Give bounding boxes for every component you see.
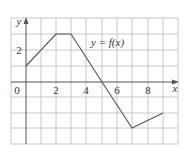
x-axis-label: x: [172, 82, 178, 94]
curve-annotation-func: f(x): [109, 36, 125, 49]
y-axis-label: y: [16, 15, 22, 27]
tick-label-x6: 6: [114, 84, 120, 96]
tick-label-origin: 0: [14, 84, 20, 96]
function-curve: [26, 34, 163, 128]
tick-label-x8: 8: [145, 84, 151, 96]
tick-label-x2: 2: [53, 84, 59, 96]
function-graph: 0 2 4 6 8 2 x y y = f(x): [0, 0, 189, 152]
curve-annotation-prefix: y =: [90, 36, 109, 48]
tick-label-x4: 4: [83, 84, 89, 96]
curve-annotation: y = f(x): [90, 36, 124, 49]
tick-label-y2: 2: [16, 44, 22, 56]
